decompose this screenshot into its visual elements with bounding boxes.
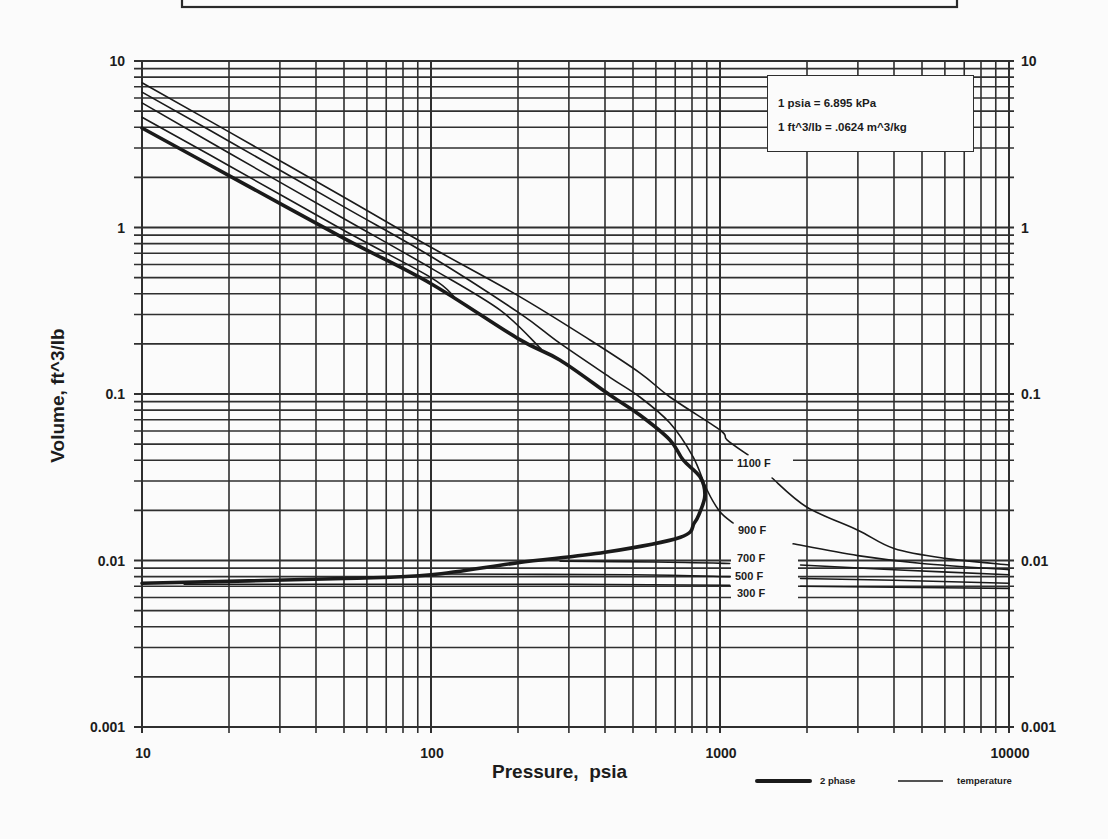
curve-500-f [801,579,1009,584]
x-tick-10000: 10000 [991,746,1030,760]
curve-700-f [142,103,541,349]
curve-label-1100f: 1100 F [734,456,777,471]
y-tick-right-0.01: 0.01 [1021,554,1048,568]
curve-label-700f: 700 F [734,551,771,566]
x-tick-100: 100 [420,746,443,760]
curve-900-f [142,92,733,523]
y-tick-left-0.1: 0.1 [106,387,125,401]
curve-label-300f: 300 F [734,586,771,601]
curve-label-900f: 900 F [735,523,772,538]
y-tick-left-10: 10 [109,54,125,68]
units-conversion-box: 1 psia = 6.895 kPa 1 ft^3/lb = .0624 m^3… [767,75,974,152]
curve-1100-f [142,83,748,455]
legend-2-phase-label: 2 phase [820,776,855,786]
units-psia-text: 1 psia = 6.895 kPa [778,97,876,109]
curve-label-500f: 500 F [732,569,769,584]
y-tick-right-0.001: 0.001 [1021,720,1056,734]
y-tick-right-10: 10 [1021,54,1037,68]
y-tick-left-0.001: 0.001 [90,720,125,734]
curve-700-f [801,565,1009,575]
curve-700-f [560,561,730,563]
y-tick-right-0.1: 0.1 [1021,387,1040,401]
x-tick-10: 10 [135,746,151,760]
y-tick-right-1: 1 [1021,221,1029,235]
y-tick-left-0.01: 0.01 [98,554,125,568]
title-frame-box [182,0,957,7]
y-axis-title: Volume, ft^3/lb [48,296,67,496]
y-tick-left-1: 1 [117,221,125,235]
legend-temperature-label: temperature [957,776,1012,786]
x-tick-1000: 1000 [705,746,736,760]
curve-300-f [184,584,730,585]
curve-2-phase [142,128,705,583]
x-axis-title: Pressure, psia [492,762,627,781]
units-volume-text: 1 ft^3/lb = .0624 m^3/kg [778,121,907,133]
